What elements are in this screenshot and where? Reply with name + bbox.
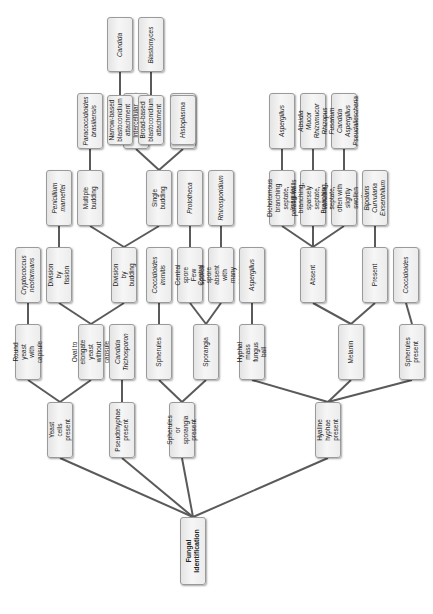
node-label: Sporangia bbox=[202, 337, 210, 367]
edge-root-yeast bbox=[60, 458, 193, 517]
node-present: Present bbox=[362, 247, 388, 303]
edge-absent-dichot bbox=[282, 226, 313, 247]
node-label: Yeast cells present bbox=[48, 418, 72, 442]
node-label: Prototheca bbox=[186, 182, 194, 213]
node-broad: Broad-based blastoconidium attachment bbox=[138, 95, 164, 145]
node-label: Hyaline hyphae present bbox=[316, 418, 340, 442]
node-label: Rhinosporidium bbox=[217, 175, 225, 220]
node-paracocci: Paracoccidioides brasiliensis bbox=[77, 93, 103, 149]
node-label: Single budding bbox=[151, 186, 167, 210]
node-spher_spor: Spherules or sporangia present bbox=[169, 402, 195, 458]
node-absidia: Absidia Mucor Rhizomucor Rhizopus bbox=[300, 93, 326, 149]
node-blasto: Blastomyces bbox=[138, 17, 164, 72]
node-label: Round yeast with capsule bbox=[12, 340, 44, 364]
node-hyphal_mass: Hyphal mass fungus ball bbox=[239, 324, 265, 380]
edge-oval-fission bbox=[59, 303, 91, 324]
edge-root-hyaline bbox=[193, 458, 328, 517]
node-label: Cryptococcus neoformans bbox=[20, 255, 36, 294]
node-label: Spherules bbox=[155, 337, 163, 366]
node-root: Fungal Identification bbox=[180, 517, 206, 585]
node-label: Division by budding bbox=[112, 263, 136, 287]
node-asp2: Aspergillus bbox=[269, 93, 295, 149]
node-label: Coccidioides bbox=[402, 257, 410, 294]
node-label: Histoplasma bbox=[179, 102, 187, 138]
node-candida_tricho: Candida Trichosporon bbox=[109, 324, 135, 380]
node-label: Spherules present bbox=[404, 337, 420, 366]
node-label: Multiple budding bbox=[82, 186, 98, 210]
node-pseudo: Pseudohyphae present bbox=[109, 402, 135, 458]
node-label: Aspergillus bbox=[278, 105, 286, 137]
edge-absent-branching bbox=[313, 226, 344, 247]
node-label: Coccidioides immitis bbox=[151, 257, 167, 294]
node-yeast: Yeast cells present bbox=[47, 402, 73, 458]
node-label: Oval to elongate yeast without capsule bbox=[71, 340, 111, 365]
node-label: Fungal Identification bbox=[185, 529, 201, 573]
node-multiple: Multiple budding bbox=[77, 170, 103, 226]
node-spher_present: Spherules present bbox=[399, 324, 425, 380]
node-asp1: Aspergillus bbox=[239, 247, 265, 303]
node-label: Candida Trichosporon bbox=[114, 333, 130, 370]
node-label: Present bbox=[371, 264, 379, 286]
node-label: Absent bbox=[309, 265, 317, 285]
node-fission: Division by fission bbox=[46, 247, 72, 303]
edge-single-intercell bbox=[136, 149, 159, 170]
node-label: Blastomyces bbox=[147, 26, 155, 63]
node-histo: Histoplasma bbox=[170, 95, 196, 145]
edge-yeast-oval bbox=[60, 380, 91, 402]
edge-budding-single bbox=[124, 226, 159, 247]
node-crypto: Cryptococcus neoformans bbox=[15, 247, 41, 303]
node-label: Broad-based blastoconidium attachment bbox=[139, 98, 163, 141]
node-rhino: Rhinosporidium bbox=[208, 170, 234, 226]
node-candida: Candida bbox=[107, 17, 133, 72]
edge-spher_spor-spherules bbox=[159, 380, 182, 402]
node-narrow: Narrow-based blastoconidium attachment bbox=[107, 95, 133, 145]
node-branching: Branching, septate, often with slightly … bbox=[331, 170, 357, 226]
node-label: Narrow-based blastoconidium attachment bbox=[108, 98, 132, 141]
connector-lines bbox=[0, 0, 433, 614]
node-label: Fusarium Candida Aspergillus Pseudallesc… bbox=[328, 96, 360, 146]
node-prototheca: Prototheca bbox=[177, 170, 203, 226]
node-label: Melanin bbox=[347, 341, 355, 364]
node-spherules: Spherules bbox=[146, 324, 172, 380]
node-label: Pseudohyphae present bbox=[114, 408, 130, 451]
node-melanin: Melanin bbox=[338, 324, 364, 380]
node-absent: Absent bbox=[300, 247, 326, 303]
node-budding: Division by budding bbox=[111, 247, 137, 303]
node-bipolaris: Bipolaris Curvularia Exserohilum bbox=[362, 170, 388, 226]
edge-sporangia-many_spores bbox=[206, 303, 221, 324]
edge-melanin-present bbox=[351, 303, 375, 324]
node-penicillium: Penicillium marneffei bbox=[46, 170, 72, 226]
node-cand_asp: Fusarium Candida Aspergillus Pseudallesc… bbox=[331, 93, 357, 149]
edge-yeast-round bbox=[28, 380, 60, 402]
node-sporangia: Sporangia bbox=[193, 324, 219, 380]
node-round: Round yeast with capsule bbox=[15, 324, 41, 380]
fungal-identification-flowchart: Fungal IdentificationYeast cells present… bbox=[0, 0, 433, 614]
edge-oval-budding bbox=[91, 303, 124, 324]
edge-spher_present-cocci2 bbox=[406, 303, 412, 324]
node-hyaline: Hyaline hyphae present bbox=[315, 402, 341, 458]
node-cocci2: Coccidioides bbox=[393, 247, 419, 303]
node-label: Branching, septate, often with slightly … bbox=[320, 182, 368, 213]
node-label: Penicillium marneffei bbox=[51, 182, 67, 213]
edge-root-pseudo bbox=[122, 458, 193, 517]
node-label: Central spore absent with many spores bbox=[197, 263, 245, 287]
node-cocci1: Coccidioides immitis bbox=[146, 247, 172, 303]
node-label: Division by fission bbox=[47, 263, 71, 287]
node-label: Spherules or sporangia present bbox=[166, 415, 198, 444]
node-label: Aspergillus bbox=[248, 259, 256, 291]
node-oval: Oval to elongate yeast without capsule bbox=[78, 324, 104, 380]
edge-hyaline-hyphal_mass bbox=[252, 380, 328, 402]
node-label: Bipolaris Curvularia Exserohilum bbox=[363, 180, 387, 216]
edge-budding-multiple bbox=[90, 226, 124, 247]
node-label: Paracoccidioides brasiliensis bbox=[82, 96, 98, 145]
node-many_spores: Central spore absent with many spores bbox=[208, 247, 234, 303]
node-label: Hyphal mass fungus ball bbox=[236, 340, 268, 364]
edge-melanin-absent bbox=[313, 303, 351, 324]
edge-single-intracell bbox=[159, 149, 183, 170]
node-single: Single budding bbox=[146, 170, 172, 226]
node-label: Candida bbox=[116, 32, 124, 56]
node-label: Absidia Mucor Rhizomucor Rhizopus bbox=[297, 104, 329, 139]
edge-spher_spor-sporangia bbox=[182, 380, 206, 402]
edge-sporangia-few_spores bbox=[190, 303, 206, 324]
